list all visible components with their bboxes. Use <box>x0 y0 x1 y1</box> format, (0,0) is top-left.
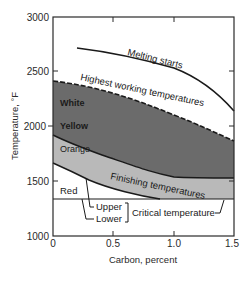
y-tick-1000: 1000 <box>27 231 50 242</box>
color-label-yellow: Yellow <box>60 121 89 131</box>
color-label-white: White <box>60 98 85 108</box>
chart-canvas: 3000 2500 2000 1500 1000 0 0.5 1.0 1.5 C… <box>0 0 251 282</box>
lower-leader-line <box>82 199 94 219</box>
x-tick-0-5: 0.5 <box>106 238 120 249</box>
upper-label: Upper <box>96 201 122 212</box>
x-tick-1-0: 1.0 <box>167 238 181 249</box>
y-tick-2500: 2500 <box>27 66 50 77</box>
melting-starts-label: Melting starts <box>127 46 185 70</box>
color-label-orange: Orange <box>60 144 90 154</box>
y-tick-1500: 1500 <box>27 176 50 187</box>
y-tick-3000: 3000 <box>27 12 50 23</box>
upper-leader-line <box>86 178 94 207</box>
x-tick-0: 0 <box>50 238 56 249</box>
color-label-red: Red <box>60 185 77 196</box>
x-axis-title: Carbon, percent <box>109 254 177 265</box>
y-tick-2000: 2000 <box>24 121 47 132</box>
x-tick-1-5: 1.5 <box>225 238 239 249</box>
critical-bracket <box>125 203 128 222</box>
y-axis-title: Temperature, °F <box>9 92 20 160</box>
lower-label: Lower <box>96 213 122 224</box>
critical-leader-line <box>215 200 224 213</box>
critical-temperature-label: Critical temperature <box>132 207 215 218</box>
